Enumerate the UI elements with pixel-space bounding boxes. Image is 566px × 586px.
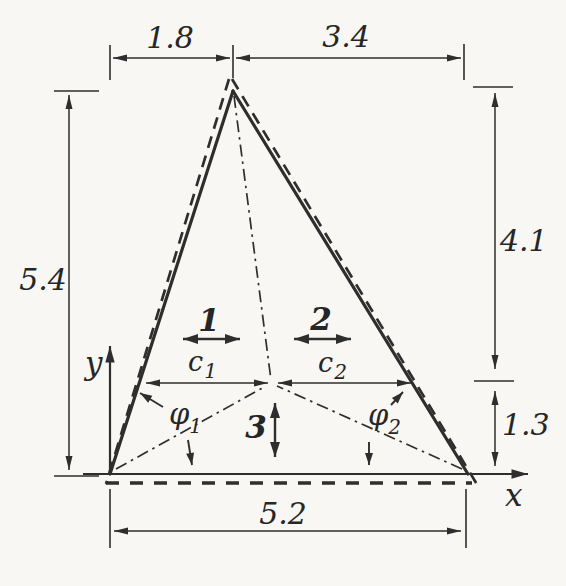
phi2-label: φ2 [368, 398, 401, 439]
dim-label-3-4: 3.4 [322, 19, 370, 54]
region-3-label: 3 [245, 409, 267, 445]
phi1-label: φ1 [169, 397, 202, 438]
dimension-left: 5.4 [19, 91, 99, 476]
dim-label-5-2: 5.2 [259, 496, 307, 531]
solid-triangle [110, 91, 468, 474]
dashed-right-side [232, 79, 478, 486]
c1-label: c1 [188, 346, 217, 383]
c2-subscript: 2 [333, 360, 347, 384]
dashed-left-side [106, 79, 229, 484]
region-2-label: 2 [309, 301, 332, 337]
dimension-bottom: 5.2 [110, 489, 466, 548]
phi2-subscript: 2 [387, 415, 401, 439]
phi1-subscript: 1 [189, 414, 202, 438]
triangle-dimension-diagram: x y 1.8 3.4 5.4 4.1 [0, 0, 566, 586]
phi2-arrow-to-side [391, 392, 403, 405]
triangle-right-side [233, 91, 468, 474]
phi1-arrow-to-side [140, 393, 163, 407]
region-1-label: 1 [198, 302, 220, 338]
dashed-triangle-outline [106, 79, 478, 486]
phi1-base: φ [169, 397, 190, 431]
dim-label-5-4: 5.4 [19, 262, 67, 297]
dimension-top: 1.8 3.4 [110, 19, 464, 80]
dim-label-4-1: 4.1 [499, 223, 548, 258]
dim-label-1-3: 1.3 [502, 407, 550, 442]
y-axis-label: y [83, 345, 103, 381]
bisector-lines [116, 96, 462, 469]
dim-label-1-8: 1.8 [146, 20, 194, 55]
coordinate-axes: x y [83, 345, 528, 513]
c1-base: c [188, 346, 203, 377]
phi1-arrow-to-base [188, 440, 192, 465]
c1-subscript: 1 [204, 359, 217, 383]
x-axis-label: x [505, 477, 523, 513]
dimension-right: 4.1 1.3 [473, 87, 550, 466]
angle-phi2: φ2 [368, 392, 403, 465]
c2-label: c2 [318, 347, 347, 384]
bisector-from-apex [234, 96, 271, 380]
figure-canvas: x y 1.8 3.4 5.4 4.1 [0, 0, 566, 586]
angle-phi1: φ1 [140, 393, 202, 465]
dimension-c1-c2: c1 c2 [146, 346, 411, 384]
c2-base: c [318, 347, 333, 378]
phi2-base: φ [368, 398, 389, 432]
